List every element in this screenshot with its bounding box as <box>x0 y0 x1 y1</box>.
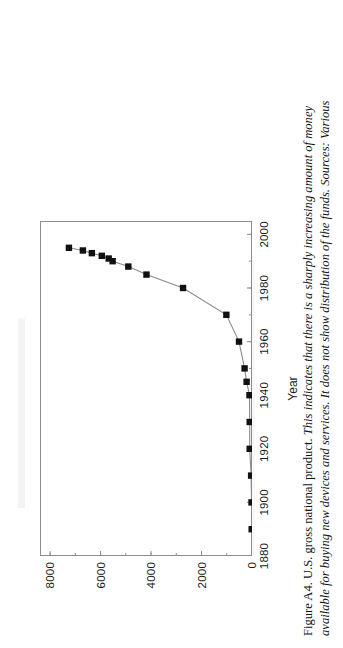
data-point <box>241 365 247 371</box>
gnp-chart <box>40 221 252 556</box>
data-point <box>66 245 72 251</box>
data-point <box>236 338 242 344</box>
x-axis-title: Year <box>286 221 300 556</box>
data-point <box>180 285 186 291</box>
figure-caption-line-1: Figure A4. U.S. gross national product. … <box>300 6 317 636</box>
y-axis-title: Dollars (Billions) <box>0 604 40 618</box>
scan-artifact <box>18 318 25 508</box>
data-point <box>80 247 86 253</box>
y-tick-label: 4000 <box>145 562 157 598</box>
y-tick-label: 6000 <box>95 562 107 598</box>
x-tick-label: 1960 <box>258 328 270 354</box>
data-point <box>143 271 149 277</box>
x-tick-label: 1920 <box>258 436 270 462</box>
data-markers <box>66 245 252 533</box>
y-tick-label: 0 <box>246 562 258 598</box>
data-point <box>89 250 95 256</box>
data-point <box>248 499 252 505</box>
data-point <box>247 419 253 425</box>
axis-ticks <box>50 234 252 556</box>
data-point <box>223 312 229 318</box>
x-tick-label: 1900 <box>258 489 270 515</box>
figure-caption-line-2: available for buying new devices and ser… <box>317 6 334 636</box>
data-point <box>243 379 249 385</box>
caption-label: Figure A4. <box>301 582 315 636</box>
x-tick-label: 1980 <box>258 275 270 301</box>
data-point <box>106 255 112 261</box>
scanned-figure-page: 1880190019201940196019802000 Year 020004… <box>0 0 343 648</box>
data-line <box>69 248 252 529</box>
caption-body-1: This indicates that there is a sharply i… <box>301 106 315 435</box>
x-tick-label: 2000 <box>258 221 270 247</box>
data-point <box>247 446 253 452</box>
data-point <box>99 253 105 259</box>
y-tick-label: 8000 <box>44 562 56 598</box>
data-point <box>246 392 252 398</box>
y-tick-label: 2000 <box>196 562 208 598</box>
caption-title: U.S. gross national product. <box>301 438 315 579</box>
data-point <box>248 472 252 478</box>
y-axis-title-wrapper: Dollars (Billions) <box>40 600 252 618</box>
data-point <box>125 263 131 269</box>
plot-canvas <box>40 221 252 556</box>
data-point <box>248 526 252 532</box>
x-tick-label: 1940 <box>258 382 270 408</box>
x-tick-label: 1880 <box>258 543 270 569</box>
